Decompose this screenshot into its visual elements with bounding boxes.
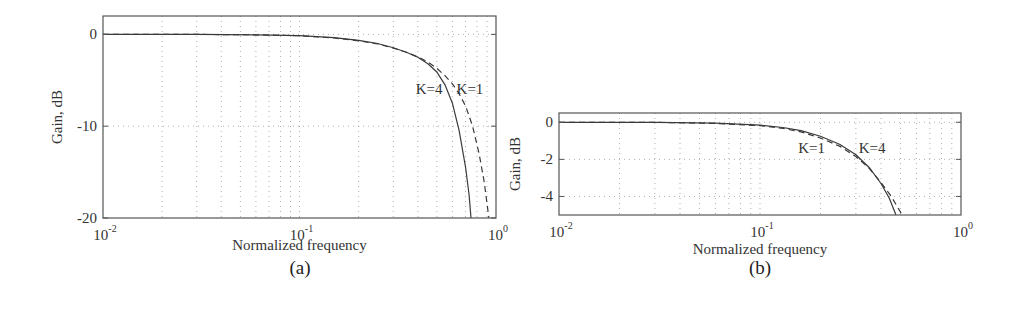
- curve-annotation: K=4: [859, 140, 886, 156]
- series-line-k4: [559, 122, 896, 215]
- chart-panel-b: 0-2-410-210-1100Normalized frequencyGain…: [0, 0, 1019, 316]
- x-axis-label: Normalized frequency: [693, 241, 828, 257]
- grid-lines: [559, 113, 961, 215]
- y-tick-label: -2: [541, 151, 554, 167]
- series-line-k1: [559, 122, 902, 215]
- y-tick-label: 0: [546, 114, 554, 130]
- y-axis-label: Gain, dB: [507, 137, 523, 191]
- x-tick-label: 100: [953, 220, 973, 240]
- x-tick-label: 10-1: [750, 220, 773, 240]
- y-tick-label: -4: [541, 188, 554, 204]
- chart-b-canvas: 0-2-410-210-1100Normalized frequencyGain…: [0, 0, 1019, 316]
- caption-b: (b): [749, 257, 771, 279]
- x-tick-label: 10-2: [549, 220, 572, 240]
- curve-annotation: K=1: [798, 140, 825, 156]
